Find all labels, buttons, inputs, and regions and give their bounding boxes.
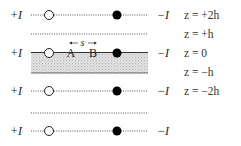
source-icon — [45, 127, 54, 136]
z-label-zero: z = 0 — [184, 47, 207, 59]
row-plus-h: z = +h — [31, 28, 214, 40]
minus-current-label: −I — [157, 124, 170, 138]
sink-icon — [113, 127, 122, 136]
point-a-label: A — [67, 46, 76, 60]
source-icon — [45, 11, 54, 20]
minus-current-label: −I — [157, 46, 170, 60]
source-icon — [45, 87, 54, 96]
image-method-diagram: +I −I z = +2h z = +h s +I A B −I z = 0 z… — [0, 0, 241, 146]
spacing-label: s — [81, 37, 85, 48]
point-b-label: B — [89, 46, 97, 60]
sink-icon — [113, 87, 122, 96]
row-plus-2h: +I −I z = +2h — [10, 8, 220, 22]
row-minus-2h: +I −I z = −2h — [10, 84, 220, 98]
minus-current-label: −I — [157, 84, 170, 98]
row-bottom: +I −I — [10, 124, 170, 138]
z-label-minus-2h: z = −2h — [184, 85, 220, 97]
z-label-plus-2h: z = +2h — [184, 9, 220, 21]
z-label-minus-h: z = −h — [184, 66, 214, 78]
plus-current-label: +I — [10, 8, 23, 22]
source-icon — [45, 49, 54, 58]
plus-current-label: +I — [10, 124, 23, 138]
sink-icon — [113, 49, 122, 58]
plus-current-label: +I — [10, 84, 23, 98]
sink-icon — [113, 11, 122, 20]
plus-current-label: +I — [10, 46, 23, 60]
minus-current-label: −I — [157, 8, 170, 22]
z-label-plus-h: z = +h — [184, 28, 214, 40]
